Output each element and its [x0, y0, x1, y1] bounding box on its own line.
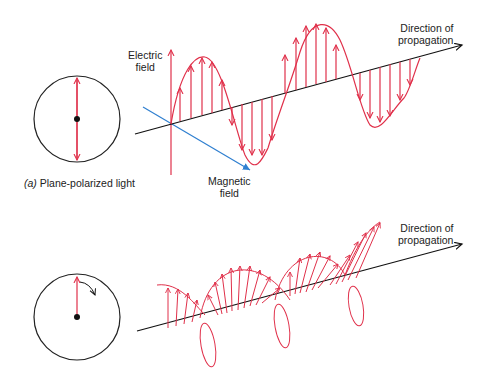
magnetic-field-label: Magnetic field: [208, 175, 251, 199]
rotation-arrow-icon: [80, 282, 95, 295]
electric-label-line1: Electric: [128, 49, 162, 61]
magnetic-label-line1: Magnetic: [208, 175, 251, 187]
panel-a-caption: (a) Plane-polarized light: [24, 177, 135, 189]
direction-label-b: Direction of propagation: [398, 222, 453, 246]
magnetic-field-axis: [143, 107, 250, 170]
magnetic-label-line2: field: [208, 187, 251, 199]
direction-b-line2: propagation: [398, 234, 453, 246]
electric-wave: [171, 24, 420, 165]
direction-label-a: Direction of propagation: [398, 22, 453, 46]
electric-field-label: Electric field: [128, 49, 162, 73]
electric-label-line2: field: [128, 61, 162, 73]
circular-polarized-circle: [34, 274, 120, 360]
direction-b-line1: Direction of: [398, 222, 453, 234]
propagation-axis-b: [137, 244, 462, 331]
caption-text: Plane-polarized light: [40, 177, 135, 189]
caption-prefix: (a): [24, 177, 37, 189]
circular-wave: [157, 222, 380, 368]
direction-a-line1: Direction of: [398, 22, 453, 34]
plane-polarized-circle: [34, 76, 120, 162]
direction-a-line2: propagation: [398, 34, 453, 46]
